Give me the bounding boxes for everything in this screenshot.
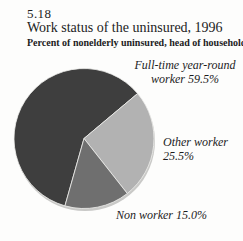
label-line: Full-time year-round [128, 59, 242, 73]
label-line: worker 59.5% [128, 73, 242, 87]
label-line: Non worker 15.0% [116, 209, 207, 223]
figure-page: 5.18 Work status of the uninsured, 1996 … [0, 0, 243, 241]
label-full-time-year-round-worker: Full-time year-round worker 59.5% [128, 59, 242, 86]
label-line: 25.5% [163, 150, 228, 164]
label-other-worker: Other worker 25.5% [163, 136, 228, 163]
pie-chart [0, 0, 243, 241]
label-non-worker: Non worker 15.0% [116, 209, 207, 223]
label-line: Other worker [163, 136, 228, 150]
